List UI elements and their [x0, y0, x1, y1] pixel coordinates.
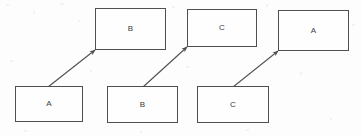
node-box-top-a[interactable]: A — [278, 10, 349, 51]
node-label-top-b: B — [128, 25, 134, 33]
edge-arrow-bottom-b-to-top-c — [143, 47, 187, 87]
node-box-bottom-c[interactable]: C — [197, 86, 269, 123]
node-label-bottom-b: B — [140, 101, 146, 109]
node-label-top-c: C — [219, 24, 225, 32]
node-label-bottom-c: C — [230, 101, 236, 109]
node-box-bottom-b[interactable]: B — [107, 86, 178, 123]
node-label-bottom-a: A — [46, 100, 52, 108]
diagram-canvas: BCAABC — [0, 0, 361, 136]
node-box-bottom-a[interactable]: A — [15, 86, 83, 122]
edge-arrow-bottom-a-to-top-b — [48, 50, 95, 87]
node-label-top-a: A — [311, 27, 317, 35]
edge-arrow-bottom-c-to-top-a — [233, 51, 278, 87]
edges-group — [48, 47, 278, 87]
node-box-top-c[interactable]: C — [187, 9, 257, 47]
node-box-top-b[interactable]: B — [95, 8, 166, 50]
